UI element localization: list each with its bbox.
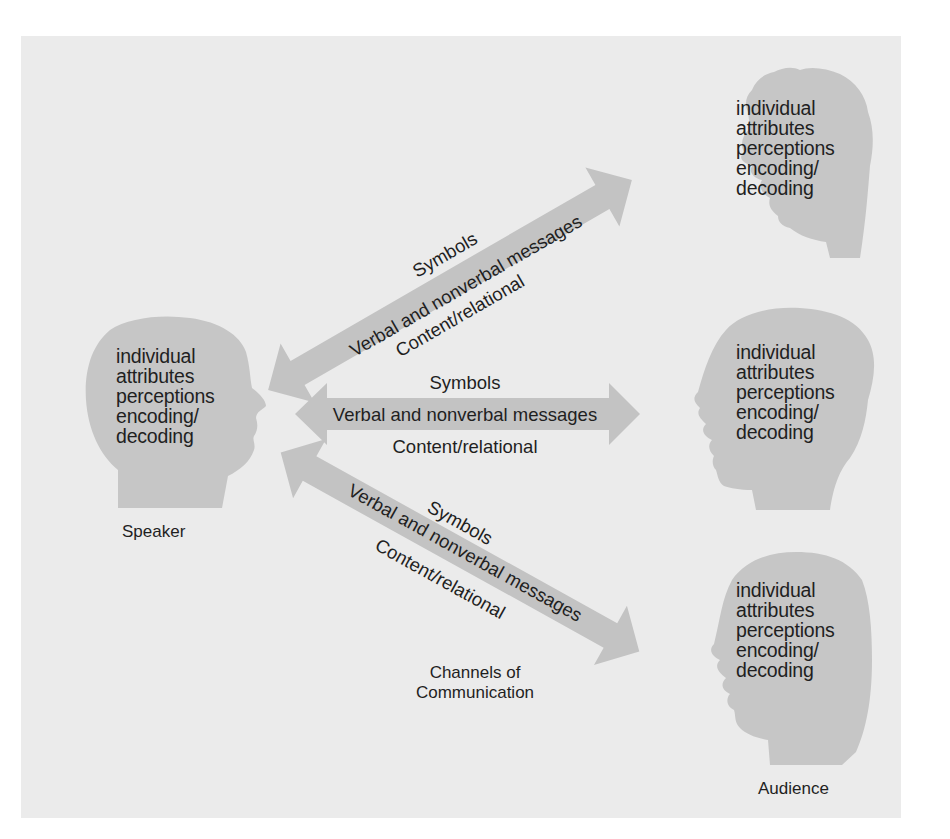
audience-attribute: decoding <box>736 178 835 198</box>
arrow-middle-symbols: Symbols <box>415 373 515 393</box>
audience-attribute: encoding/ <box>736 640 835 660</box>
audience-attribute: perceptions <box>736 382 835 402</box>
audience-3-attributes: individual attributes perceptions encodi… <box>736 580 835 680</box>
audience-attribute: individual <box>736 580 835 600</box>
audience-attribute: individual <box>736 342 835 362</box>
audience-attribute: perceptions <box>736 620 835 640</box>
speaker-attributes: individual attributes perceptions encodi… <box>116 346 215 446</box>
speaker-attribute: attributes <box>116 366 215 386</box>
arrow-middle-messages: Verbal and nonverbal messages <box>315 405 615 425</box>
audience-attribute: attributes <box>736 118 835 138</box>
audience-1-attributes: individual attributes perceptions encodi… <box>736 98 835 198</box>
audience-attribute: attributes <box>736 600 835 620</box>
audience-attribute: decoding <box>736 660 835 680</box>
audience-attribute: individual <box>736 98 835 118</box>
arrow-middle-content: Content/relational <box>375 437 555 457</box>
audience-label: Audience <box>758 779 829 799</box>
speaker-attribute: perceptions <box>116 386 215 406</box>
speaker-attribute: encoding/ <box>116 406 215 426</box>
channels-caption-line2: Communication <box>400 683 550 703</box>
speaker-attribute: decoding <box>116 426 215 446</box>
audience-attribute: perceptions <box>736 138 835 158</box>
audience-attribute: encoding/ <box>736 158 835 178</box>
audience-attribute: decoding <box>736 422 835 442</box>
audience-2-attributes: individual attributes perceptions encodi… <box>736 342 835 442</box>
audience-attribute: encoding/ <box>736 402 835 422</box>
speaker-attribute: individual <box>116 346 215 366</box>
speaker-label: Speaker <box>122 522 185 542</box>
audience-attribute: attributes <box>736 362 835 382</box>
channels-caption: Channels of Communication <box>400 663 550 703</box>
channels-caption-line1: Channels of <box>400 663 550 683</box>
